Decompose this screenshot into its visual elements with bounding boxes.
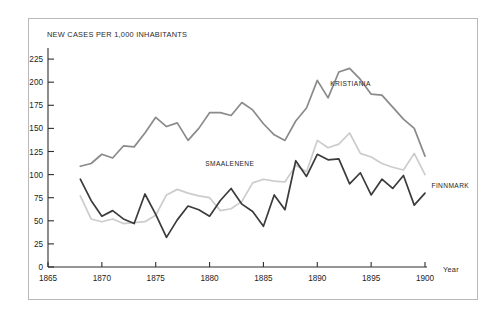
line-chart: 0255075100125150175200225 18651870187518… [29,19,477,299]
y-tick-label: 100 [29,171,43,180]
series-label-kristiania: KRISTIANIA [330,80,371,87]
x-tick-label: 1865 [39,274,58,283]
y-tick-label: 125 [29,148,43,157]
page-bleed-strip [0,0,500,16]
series-group [80,68,425,237]
x-tick-label: 1880 [200,274,219,283]
y-tick-label: 25 [34,240,44,249]
x-tick-group: 18651870187518801885189018951900 [39,262,435,283]
figure-frame: 0255075100125150175200225 18651870187518… [28,18,478,300]
x-axis-title: Year [443,265,459,274]
series-line-kristiania [80,68,425,166]
series-label-smaalenene: SMAALENENE [205,160,254,167]
y-tick-label: 50 [34,217,44,226]
y-tick-label: 225 [29,55,43,64]
x-tick-label: 1885 [254,274,273,283]
y-tick-label: 175 [29,101,43,110]
y-tick-label: 0 [38,263,43,272]
x-tick-label: 1895 [362,274,381,283]
y-tick-label: 150 [29,124,43,133]
y-tick-label: 75 [34,194,44,203]
x-tick-label: 1870 [93,274,112,283]
y-tick-group: 0255075100125150175200225 [29,55,54,272]
x-tick-label: 1875 [147,274,166,283]
series-label-finnmark: FINNMARK [431,182,469,189]
x-tick-label: 1890 [308,274,327,283]
x-tick-label: 1900 [416,274,435,283]
y-axis-title: NEW CASES PER 1,000 INHABITANTS [47,30,187,39]
y-tick-label: 200 [29,78,43,87]
series-label-group: KRISTIANIASMAALENENEFINNMARK [205,80,469,190]
